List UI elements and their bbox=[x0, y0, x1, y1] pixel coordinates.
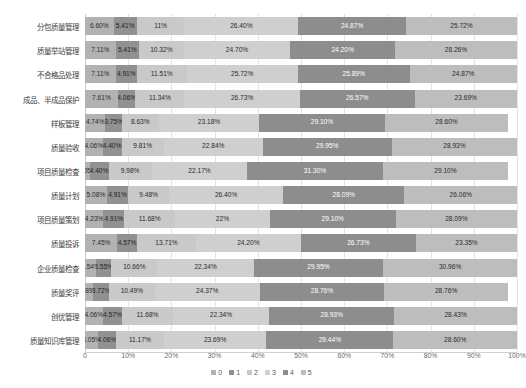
bar-segment-series-4[interactable]: 28.76% bbox=[260, 283, 384, 301]
bar-segment-series-3[interactable]: 24.70% bbox=[184, 41, 291, 59]
bar-segment-series-2[interactable]: 9.81% bbox=[122, 138, 164, 156]
bar-segment-series-2[interactable]: 11% bbox=[137, 17, 185, 35]
bar-segment-series-1[interactable]: 5.41% bbox=[114, 17, 137, 35]
bar-segment-series-3[interactable]: 23.69% bbox=[164, 331, 266, 349]
bar-row[interactable]: 项目质量检查1.05%4.40%9.98%22.17%31.30%29.10% bbox=[85, 160, 517, 182]
bar-segment-series-4[interactable]: 29.95% bbox=[254, 259, 383, 277]
bar-segment-series-1[interactable]: 5.41% bbox=[116, 41, 139, 59]
bar-segment-series-4[interactable]: 29.95% bbox=[263, 138, 392, 156]
bar-segment-series-4[interactable]: 29.44% bbox=[266, 331, 393, 349]
bar-segment-series-0[interactable]: 4.06% bbox=[85, 307, 103, 325]
bar-segment-series-0[interactable]: 3.05% bbox=[85, 331, 98, 349]
bar-segment-series-3[interactable]: 22.34% bbox=[157, 259, 254, 277]
bar-segment-series-1[interactable]: 4.40% bbox=[103, 138, 122, 156]
bar-segment-series-4[interactable]: 24.20% bbox=[290, 41, 395, 59]
bar-segment-series-1[interactable]: 3.75% bbox=[105, 114, 121, 132]
bar-segment-series-3[interactable]: 22.84% bbox=[164, 138, 263, 156]
bar-segment-series-4[interactable]: 29.10% bbox=[259, 114, 385, 132]
bar-segment-series-2[interactable]: 11.34% bbox=[135, 90, 184, 108]
bar-segment-series-2[interactable]: 11.68% bbox=[122, 307, 172, 325]
bar-segment-series-0[interactable]: 5.08% bbox=[85, 186, 107, 204]
bar-row[interactable]: 项目质量策划4.23%4.91%11.68%22%29.10%28.09% bbox=[85, 208, 517, 230]
bar-segment-series-1[interactable]: 4.57% bbox=[103, 307, 123, 325]
bar-segment-series-0[interactable]: 2.54% bbox=[85, 259, 96, 277]
bar-segment-series-3[interactable]: 22.17% bbox=[152, 162, 248, 180]
legend-item-3[interactable]: 3 bbox=[265, 369, 276, 376]
bar-segment-series-0[interactable]: 7.11% bbox=[85, 65, 116, 83]
bar-segment-series-3[interactable]: 24.37% bbox=[155, 283, 260, 301]
bar-segment-series-2[interactable]: 10.49% bbox=[109, 283, 154, 301]
bar-segment-series-2[interactable]: 11.68% bbox=[124, 210, 174, 228]
bar-row[interactable]: 质量知识库管理3.05%4.06%11.17%23.69%29.44%28.60… bbox=[85, 329, 517, 351]
bar-segment-series-2[interactable]: 9.98% bbox=[109, 162, 152, 180]
bar-row[interactable]: 质量计划5.08%4.91%9.48%26.40%28.09%26.06% bbox=[85, 184, 517, 206]
bar-segment-series-3[interactable]: 22% bbox=[175, 210, 270, 228]
bar-segment-series-4[interactable]: 25.89% bbox=[298, 65, 410, 83]
bar-segment-series-4[interactable]: 26.73% bbox=[301, 234, 416, 252]
bar-segment-series-1[interactable]: 4.06% bbox=[118, 90, 136, 108]
bar-segment-series-1[interactable]: 4.91% bbox=[103, 210, 124, 228]
bar-segment-series-4[interactable]: 31.30% bbox=[247, 162, 382, 180]
bar-segment-series-2[interactable]: 9.48% bbox=[128, 186, 169, 204]
bar-segment-series-5[interactable]: 28.26% bbox=[395, 41, 517, 59]
bar-segment-series-4[interactable]: 26.57% bbox=[300, 90, 415, 108]
bar-segment-series-3[interactable]: 26.73% bbox=[184, 90, 299, 108]
bar-segment-series-3[interactable]: 24.20% bbox=[196, 234, 301, 252]
bar-segment-series-3[interactable]: 22.34% bbox=[173, 307, 270, 325]
bar-segment-series-4[interactable]: 28.09% bbox=[283, 186, 404, 204]
bar-segment-series-5[interactable]: 23.69% bbox=[415, 90, 517, 108]
bar-segment-series-2[interactable]: 13.71% bbox=[137, 234, 196, 252]
bar-segment-series-1[interactable]: 4.91% bbox=[116, 65, 137, 83]
bar-segment-series-1[interactable]: 4.06% bbox=[98, 331, 116, 349]
bar-row[interactable]: 不合格品处理7.11%4.91%11.51%25.72%25.89%24.87% bbox=[85, 63, 517, 85]
bar-segment-series-0[interactable]: 7.11% bbox=[85, 41, 116, 59]
bar-segment-series-5[interactable]: 28.76% bbox=[384, 283, 508, 301]
legend-item-5[interactable]: 5 bbox=[301, 369, 312, 376]
bar-segment-series-0[interactable]: 1.89% bbox=[85, 283, 93, 301]
bar-row[interactable]: 质量投诉7.45%4.57%13.71%24.20%26.73%23.35% bbox=[85, 232, 517, 254]
bar-segment-series-5[interactable]: 28.60% bbox=[393, 331, 517, 349]
bar-row[interactable]: 成品、半成品保护7.61%4.06%11.34%26.73%26.57%23.6… bbox=[85, 88, 517, 110]
legend-item-1[interactable]: 1 bbox=[229, 369, 240, 376]
bar-segment-series-3[interactable]: 26.40% bbox=[169, 186, 283, 204]
bar-segment-series-5[interactable]: 29.10% bbox=[383, 162, 509, 180]
bar-segment-series-5[interactable]: 25.72% bbox=[406, 17, 517, 35]
bar-row[interactable]: 创优管理4.06%4.57%11.68%22.34%28.93%28.43% bbox=[85, 305, 517, 327]
legend-item-0[interactable]: 0 bbox=[211, 369, 222, 376]
bar-row[interactable]: 质量奖评1.89%3.72%10.49%24.37%28.76%28.76% bbox=[85, 281, 517, 303]
bar-row[interactable]: 企业质量检查2.54%3.55%10.66%22.34%29.95%30.96% bbox=[85, 257, 517, 279]
bar-segment-series-5[interactable]: 23.35% bbox=[416, 234, 517, 252]
bar-segment-series-1[interactable]: 3.72% bbox=[93, 283, 109, 301]
bar-segment-series-1[interactable]: 3.55% bbox=[96, 259, 111, 277]
bar-segment-series-0[interactable]: 7.61% bbox=[85, 90, 118, 108]
legend-item-2[interactable]: 2 bbox=[247, 369, 258, 376]
bar-segment-series-0[interactable]: 6.60% bbox=[85, 17, 114, 35]
bar-segment-series-2[interactable]: 10.32% bbox=[139, 41, 184, 59]
bar-segment-series-5[interactable]: 28.43% bbox=[394, 307, 517, 325]
bar-segment-series-1[interactable]: 4.40% bbox=[90, 162, 109, 180]
bar-row[interactable]: 样板管理4.74%3.75%8.63%23.18%29.10%28.60% bbox=[85, 112, 517, 134]
bar-segment-series-4[interactable]: 24.87% bbox=[298, 17, 405, 35]
bar-row[interactable]: 质量举站管理7.11%5.41%10.32%24.70%24.20%28.26% bbox=[85, 39, 517, 61]
bar-segment-series-0[interactable]: 4.74% bbox=[85, 114, 105, 132]
bar-segment-series-0[interactable]: 7.45% bbox=[85, 234, 117, 252]
legend-item-4[interactable]: 4 bbox=[283, 369, 294, 376]
bar-segment-series-5[interactable]: 28.60% bbox=[385, 114, 509, 132]
bar-segment-series-2[interactable]: 10.66% bbox=[111, 259, 157, 277]
bar-segment-series-3[interactable]: 25.72% bbox=[187, 65, 298, 83]
bar-segment-series-0[interactable]: 4.23% bbox=[85, 210, 103, 228]
bar-segment-series-4[interactable]: 29.10% bbox=[270, 210, 396, 228]
bar-row[interactable]: 质量验收4.06%4.40%9.81%22.84%29.95%28.93% bbox=[85, 136, 517, 158]
bar-segment-series-0[interactable]: 4.06% bbox=[85, 138, 103, 156]
bar-segment-series-5[interactable]: 30.96% bbox=[383, 259, 517, 277]
bar-segment-series-1[interactable]: 4.91% bbox=[107, 186, 128, 204]
bar-segment-series-5[interactable]: 28.93% bbox=[392, 138, 517, 156]
bar-segment-series-2[interactable]: 8.63% bbox=[122, 114, 159, 132]
bar-segment-series-5[interactable]: 26.06% bbox=[404, 186, 517, 204]
bar-segment-series-2[interactable]: 11.17% bbox=[116, 331, 164, 349]
bar-segment-series-3[interactable]: 23.18% bbox=[159, 114, 259, 132]
bar-segment-series-2[interactable]: 11.51% bbox=[137, 65, 187, 83]
bar-segment-series-5[interactable]: 28.09% bbox=[396, 210, 517, 228]
bar-segment-series-4[interactable]: 28.93% bbox=[269, 307, 394, 325]
bar-row[interactable]: 分包质量管理6.60%5.41%11%26.40%24.87%25.72% bbox=[85, 15, 517, 37]
